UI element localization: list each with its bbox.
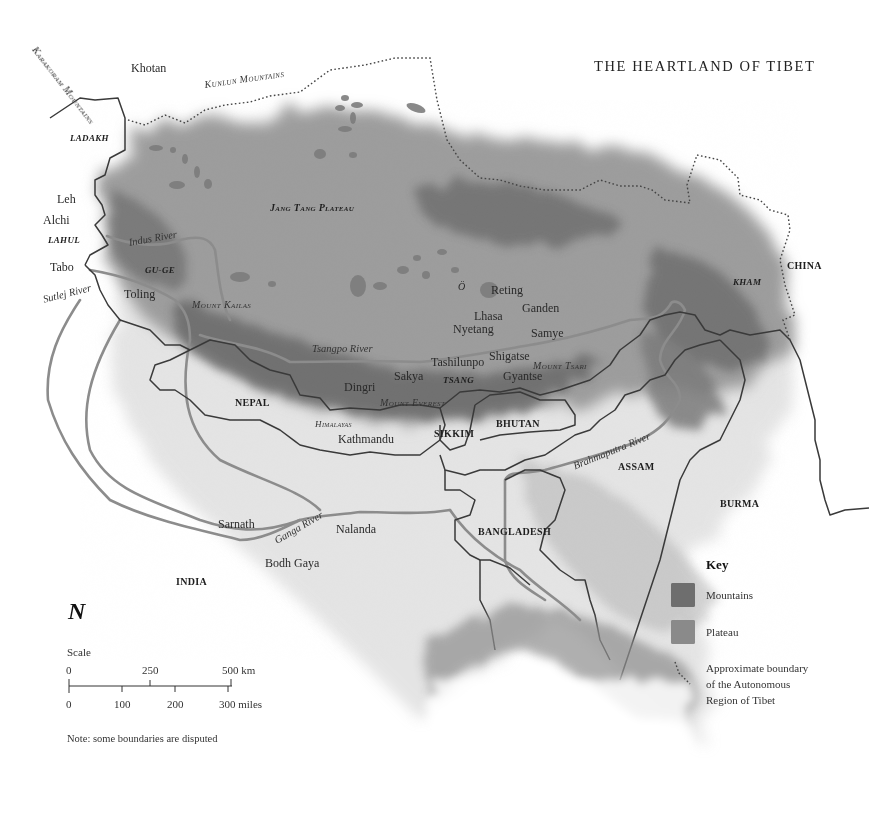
label-toling: Toling [124, 288, 155, 300]
label-burma: BURMA [720, 499, 759, 509]
label-bangladesh: BANGLADESH [478, 527, 551, 537]
label-kham: KHAM [733, 278, 761, 287]
north-arrow-icon: N [68, 598, 85, 625]
label-kathmandu: Kathmandu [338, 433, 394, 445]
label-assam: ASSAM [618, 462, 655, 472]
key-label-boundary-line3: Region of Tibet [706, 692, 775, 708]
label-reting: Reting [491, 284, 523, 296]
scale-mile-tick-200: 200 [167, 698, 184, 710]
scale-km-tick-500: 500 km [222, 664, 255, 676]
label-tsangpo-river: Tsangpo River [312, 344, 373, 355]
label-india: INDIA [176, 577, 207, 587]
mountains-swatch-icon [671, 583, 695, 607]
key-label-plateau: Plateau [706, 624, 738, 640]
plateau-swatch-icon [671, 620, 695, 644]
key-label-boundary-line2: of the Autonomous [706, 676, 790, 692]
label-khotan: Khotan [131, 62, 166, 74]
label-shigatse: Shigatse [489, 350, 530, 362]
label-dingri: Dingri [344, 381, 375, 393]
label-bodh-gaya: Bodh Gaya [265, 557, 319, 569]
label-sakya: Sakya [394, 370, 423, 382]
scale-bar [69, 679, 232, 693]
label-mount-tsari: Mount Tsari [533, 361, 587, 371]
label-nyetang: Nyetang [453, 323, 494, 335]
scale-mile-tick-100: 100 [114, 698, 131, 710]
label-himalayas: Himalayas [315, 420, 352, 429]
key-title: Key [706, 557, 728, 573]
scale-mile-tick-300: 300 miles [219, 698, 262, 710]
label-tsang: TSANG [443, 376, 474, 385]
label-sikkim: SIKKIM [434, 429, 474, 439]
label-alchi: Alchi [43, 214, 70, 226]
label-sarnath: Sarnath [218, 518, 255, 530]
label-nalanda: Nalanda [336, 523, 376, 535]
label-tashilunpo: Tashilunpo [431, 356, 484, 368]
label-ladakh: LADAKH [70, 134, 109, 143]
key-label-mountains: Mountains [706, 587, 753, 603]
scale-mile-tick-0: 0 [66, 698, 72, 710]
label-mount-kailas: Mount Kailas [192, 300, 251, 310]
label-lahul: LAHUL [48, 236, 80, 245]
label-ganden: Ganden [522, 302, 559, 314]
label-samye: Samye [531, 327, 564, 339]
label-guge: GU-GE [145, 266, 175, 275]
key-label-boundary-line1: Approximate boundary [706, 660, 808, 676]
label-leh: Leh [57, 193, 76, 205]
label-gyantse: Gyantse [503, 370, 542, 382]
label-jang-tang-plateau: Jang Tang Plateau [270, 203, 354, 213]
burma-border [790, 340, 869, 515]
map-title: THE HEARTLAND OF TIBET [594, 58, 815, 75]
label-nepal: NEPAL [235, 398, 270, 408]
label-mount-everest: Mount Everest [380, 398, 445, 408]
scale-km-tick-250: 250 [142, 664, 159, 676]
label-tabo: Tabo [50, 261, 74, 273]
disputed-boundaries-note: Note: some boundaries are disputed [67, 733, 217, 744]
label-lhasa: Lhasa [474, 310, 503, 322]
scale-title: Scale [67, 646, 91, 658]
scale-km-tick-0: 0 [66, 664, 72, 676]
label-o: Ö [458, 282, 465, 292]
label-bhutan: BHUTAN [496, 419, 540, 429]
label-china: CHINA [787, 261, 822, 271]
